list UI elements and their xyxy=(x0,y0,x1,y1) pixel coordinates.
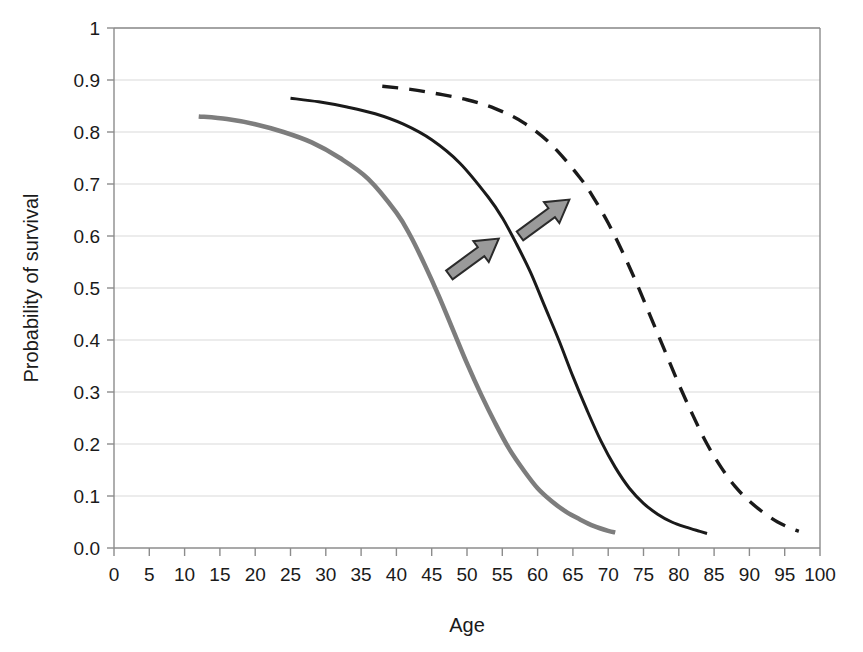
x-axis-tick-label: 40 xyxy=(386,564,407,585)
x-axis-tick-label: 5 xyxy=(144,564,155,585)
y-axis-tick-label: 0.1 xyxy=(74,486,100,507)
x-axis-tick-label: 80 xyxy=(668,564,689,585)
chart-canvas: 0.00.10.20.30.40.50.60.70.80.91 05101520… xyxy=(0,0,863,652)
x-axis-tick-label: 10 xyxy=(174,564,195,585)
x-axis-tick-label: 15 xyxy=(209,564,230,585)
y-axis-tick-label: 0.8 xyxy=(74,122,100,143)
y-axis-title: Probability of survival xyxy=(20,194,42,383)
survival-probability-chart: 0.00.10.20.30.40.50.60.70.80.91 05101520… xyxy=(0,0,863,652)
x-axis-tick-label: 70 xyxy=(598,564,619,585)
x-axis-tick-label: 55 xyxy=(492,564,513,585)
y-axis-tick-label: 0.6 xyxy=(74,226,100,247)
x-axis-tick-label: 30 xyxy=(315,564,336,585)
y-axis-tick-label: 0.0 xyxy=(74,538,100,559)
x-axis-tick-label: 45 xyxy=(421,564,442,585)
y-axis-tick-label: 1 xyxy=(89,18,100,39)
x-axis-tick-label: 60 xyxy=(527,564,548,585)
y-axis-tick-label: 0.9 xyxy=(74,70,100,91)
x-axis-tick-label: 65 xyxy=(562,564,583,585)
y-axis-tick-label: 0.3 xyxy=(74,382,100,403)
y-axis-tick-label: 0.5 xyxy=(74,278,100,299)
y-axis-tick-label: 0.7 xyxy=(74,174,100,195)
x-axis-tick-label: 50 xyxy=(456,564,477,585)
x-axis-tick-label: 85 xyxy=(704,564,725,585)
x-axis-tick-label: 75 xyxy=(633,564,654,585)
x-axis-tick-label: 20 xyxy=(245,564,266,585)
y-axis-tick-label: 0.4 xyxy=(74,330,101,351)
x-axis-ticks xyxy=(114,548,820,556)
y-axis-tick-label: 0.2 xyxy=(74,434,100,455)
x-axis-tick-label: 0 xyxy=(109,564,120,585)
x-axis-tick-label: 95 xyxy=(774,564,795,585)
x-axis-tick-label: 25 xyxy=(280,564,301,585)
x-axis-tick-label: 35 xyxy=(351,564,372,585)
x-axis-tick-label: 90 xyxy=(739,564,760,585)
x-axis-tick-label: 100 xyxy=(804,564,836,585)
x-axis-title: Age xyxy=(449,614,485,636)
